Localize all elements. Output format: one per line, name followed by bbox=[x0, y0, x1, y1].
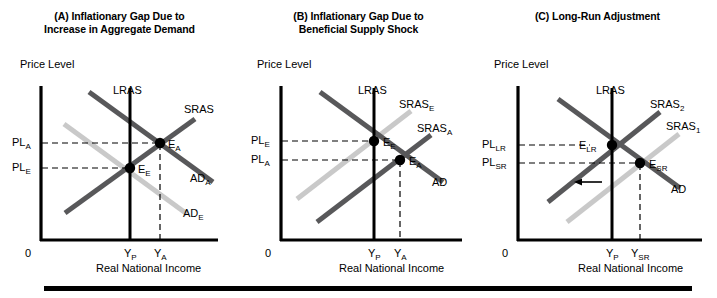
bottom-rule bbox=[44, 286, 692, 291]
point-e-a bbox=[395, 155, 405, 165]
label-lras: LRAS bbox=[113, 84, 142, 96]
point-e-e bbox=[369, 136, 379, 146]
point-e-e bbox=[125, 163, 135, 173]
label-e-e: EE bbox=[138, 163, 151, 178]
panel-c-x-axis-title: Real National Income bbox=[578, 262, 683, 274]
label-lras: LRAS bbox=[358, 84, 387, 96]
label-ad: AD bbox=[432, 176, 447, 188]
panel-c: (C) Long-Run Adjustment Price Level bbox=[478, 0, 717, 298]
panel-c-plot bbox=[478, 0, 717, 298]
label-sras: SRAS bbox=[184, 103, 214, 115]
label-sras-a: SRASA bbox=[417, 122, 452, 137]
panel-b-plot bbox=[239, 0, 478, 298]
tick-y-p: YP bbox=[606, 247, 619, 262]
tick-y-p: YP bbox=[124, 247, 137, 262]
tick-pl-sr: PLSR bbox=[482, 156, 507, 171]
panel-b-x-axis-title: Real National Income bbox=[339, 262, 444, 274]
label-ad-e: ADE bbox=[183, 207, 204, 222]
label-ad: AD bbox=[671, 183, 686, 195]
tick-pl-e: PLE bbox=[251, 134, 270, 149]
tick-pl-a: PLA bbox=[251, 153, 270, 168]
tick-pl-e: PLE bbox=[12, 161, 31, 176]
label-e-sr: ESR bbox=[649, 158, 667, 173]
tick-y-a: YA bbox=[394, 247, 407, 262]
tick-y-p: YP bbox=[368, 247, 381, 262]
label-sras-1: SRAS1 bbox=[666, 120, 700, 135]
label-ad-a: ADA bbox=[190, 172, 211, 187]
tick-pl-a: PLA bbox=[12, 136, 31, 151]
label-e-lr: ELR bbox=[579, 139, 597, 154]
label-e-a: EA bbox=[409, 155, 422, 170]
panel-a-origin-label: 0 bbox=[25, 247, 31, 259]
curve-sras-2 bbox=[548, 112, 660, 202]
point-e-lr bbox=[607, 140, 617, 150]
point-e-a bbox=[155, 138, 165, 148]
panel-c-origin-label: 0 bbox=[502, 247, 508, 259]
panel-b: (B) Inflationary Gap Due to Beneficial S… bbox=[239, 0, 478, 298]
tick-y-sr: YSR bbox=[631, 247, 649, 262]
tick-y-a: YA bbox=[154, 247, 167, 262]
label-e-e: EE bbox=[383, 136, 396, 151]
label-e-a: EA bbox=[168, 138, 181, 153]
panel-a: (A) Inflationary Gap Due to Increase in … bbox=[0, 0, 239, 298]
point-e-sr bbox=[635, 158, 645, 168]
label-sras-e: SRASE bbox=[399, 98, 434, 113]
label-sras-2: SRAS2 bbox=[650, 98, 684, 113]
panel-a-plot bbox=[0, 0, 239, 298]
label-lras: LRAS bbox=[596, 84, 625, 96]
tick-pl-lr: PLLR bbox=[482, 138, 506, 153]
curve-sras-e bbox=[297, 111, 411, 199]
panel-a-x-axis-title: Real National Income bbox=[96, 262, 201, 274]
panel-b-origin-label: 0 bbox=[265, 247, 271, 259]
